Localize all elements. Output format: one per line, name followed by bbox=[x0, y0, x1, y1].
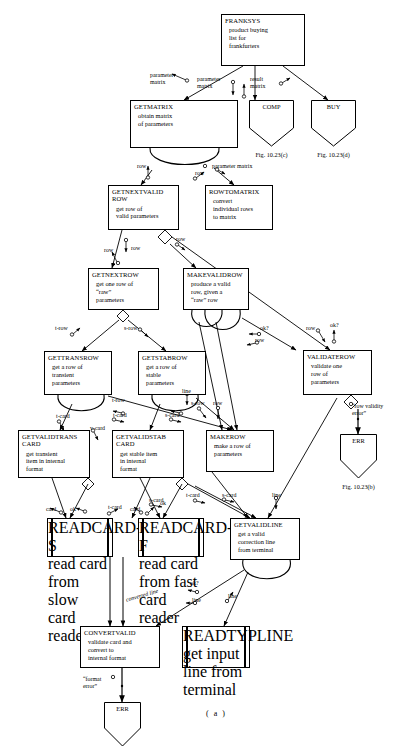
module-title: FRANKSYS bbox=[222, 15, 304, 24]
module-title: VALIDATEROW bbox=[304, 351, 371, 360]
module-getstabrow: GETSTABROWget a row ofstableparameters bbox=[138, 351, 206, 395]
module-title: CONVERTVALID bbox=[81, 627, 159, 636]
data-couple-label: t-row bbox=[55, 325, 68, 332]
data-couple-label: row bbox=[137, 163, 146, 170]
data-couple-label: ok bbox=[70, 506, 76, 513]
module-comp: COMP bbox=[249, 100, 294, 148]
module-franksys: FRANKSYSproduct buyinglist forfrankfurte… bbox=[221, 14, 305, 66]
data-couple-label: s-row bbox=[124, 325, 137, 332]
data-couple-label: row bbox=[104, 247, 113, 254]
module-description: validate card andconvert tointernal form… bbox=[81, 636, 159, 661]
module-makevalidrow: MAKEVALIDROWproduce a validrow, given a“… bbox=[183, 268, 249, 310]
module-title: ERR bbox=[340, 437, 377, 444]
module-description: get stable itemin internalformat bbox=[113, 448, 183, 473]
module-readcardf: READCARD-Fread cardfrom fastcard reader bbox=[138, 518, 204, 557]
module-description: convertindividual rowsto matrix bbox=[206, 195, 272, 220]
module-getnextrow: GETNEXTROWget one row of“raw”parameters bbox=[88, 268, 159, 310]
data-couple-label: ok? bbox=[260, 325, 269, 332]
data-couple-label: row bbox=[255, 337, 264, 344]
module-getvalidtranscard: GETVALIDTRANS CARDget transientitem in i… bbox=[18, 430, 90, 478]
module-title: ERR bbox=[104, 705, 141, 712]
data-couple-label: line bbox=[192, 597, 201, 604]
module-makerow: MAKEROWmake a row ofparameters bbox=[206, 430, 274, 472]
module-title: MAKEVALIDROW bbox=[184, 269, 248, 278]
module-description: produce a validrow, given a“raw” row bbox=[184, 278, 248, 303]
device-bar-left bbox=[186, 626, 188, 668]
module-fig-ref-err_row: Fig. 10.23(b) bbox=[332, 483, 385, 490]
module-convertvalid: CONVERTVALIDvalidate card andconvert toi… bbox=[80, 626, 160, 668]
data-couple-label: ok? bbox=[330, 322, 339, 329]
module-description: validate onerow ofparameters bbox=[304, 360, 371, 385]
data-couple-label: “formaterror” bbox=[83, 676, 101, 689]
module-buy: BUY bbox=[311, 100, 356, 148]
data-couple-label: s-row bbox=[191, 400, 204, 407]
module-fig-ref-comp: Fig. 10.23(c) bbox=[241, 151, 302, 158]
module-readcards: READCARD-Sread cardfrom slowcard reader bbox=[47, 518, 113, 557]
module-title: GETNEXTVALID ROW bbox=[109, 186, 178, 203]
data-couple-label: t-card bbox=[113, 412, 127, 419]
module-err_row: ERR bbox=[340, 434, 377, 480]
module-description: obtain matrixof parameters bbox=[131, 110, 237, 127]
data-couple-label: line bbox=[182, 388, 191, 395]
data-couple-label: card bbox=[46, 506, 56, 513]
data-couple-label: parameter matrix bbox=[212, 163, 252, 170]
module-title: READCARD-S bbox=[48, 519, 112, 555]
module-title: ROWTOMATRIX bbox=[206, 186, 272, 195]
data-couple-label: line bbox=[228, 593, 237, 600]
data-couple-label: ok bbox=[160, 500, 166, 507]
module-err_fmt: ERR bbox=[104, 702, 141, 748]
module-rowtomatrix: ROWTOMATRIXconvertindividual rowsto matr… bbox=[205, 185, 273, 230]
data-couple-label: s-card bbox=[222, 492, 236, 499]
module-title: GETMATRIX bbox=[131, 101, 237, 110]
data-couple-label: s-card bbox=[165, 412, 179, 419]
module-title: BUY bbox=[311, 103, 356, 110]
module-title: GETSTABROW bbox=[139, 352, 205, 361]
device-bar-right bbox=[107, 518, 109, 557]
module-description: get a row ofstableparameters bbox=[139, 361, 205, 386]
module-title: GETVALIDLINE bbox=[231, 519, 299, 528]
module-description: get transientitem in internalformat bbox=[19, 448, 89, 473]
module-fig-ref-buy: Fig. 10.23(d) bbox=[303, 151, 364, 158]
module-getnextvalidrow: GETNEXTVALID ROWget row ofvalid paramete… bbox=[108, 185, 179, 230]
data-couple-label: v-card bbox=[90, 425, 105, 432]
device-bar-left bbox=[51, 518, 53, 557]
data-couple-label: line bbox=[272, 492, 281, 499]
data-couple-label: row bbox=[176, 236, 185, 243]
module-title: GETVALIDSTAB CARD bbox=[113, 431, 183, 448]
module-validaterow: VALIDATEROWvalidate onerow ofparameters bbox=[303, 350, 372, 395]
data-couple-label: row bbox=[213, 400, 222, 407]
data-couple-label: t-card bbox=[56, 413, 70, 420]
module-title: GETTRANSROW bbox=[45, 352, 111, 361]
data-couple-label: parametermatrix bbox=[197, 76, 221, 89]
data-couple-label: ok? bbox=[190, 580, 199, 587]
module-title: GETVALIDTRANS CARD bbox=[19, 431, 89, 448]
module-title: READTYPLINE bbox=[183, 627, 249, 645]
data-couple-label: t-row bbox=[112, 397, 125, 404]
device-bar-right bbox=[244, 626, 246, 668]
data-couple-label: card bbox=[130, 506, 140, 513]
module-getvalidstabcard: GETVALIDSTAB CARDget stable itemin inter… bbox=[112, 430, 184, 478]
module-getmatrix: GETMATRIXobtain matrixof parameters bbox=[130, 100, 238, 148]
data-couple-label: t-card bbox=[108, 504, 122, 511]
data-couple-label: t-card bbox=[186, 492, 200, 499]
module-description: get a validcorrection linefrom terminal bbox=[231, 528, 299, 553]
figure-caption: ( a ) bbox=[206, 709, 226, 718]
module-description: get inputline fromterminal bbox=[183, 645, 249, 699]
module-title: READCARD-F bbox=[139, 519, 203, 555]
module-title: GETNEXTROW bbox=[89, 269, 158, 278]
device-bar-left bbox=[142, 518, 144, 557]
data-couple-label: row bbox=[306, 325, 315, 332]
data-couple-label: parametermatrix bbox=[150, 72, 174, 85]
data-couple-label: “row validityerror” bbox=[352, 403, 383, 416]
data-couple-label: resultmatrix bbox=[250, 76, 265, 89]
module-description: product buyinglist forfrankfurters bbox=[222, 24, 304, 49]
module-description: get one row of“raw”parameters bbox=[89, 278, 158, 303]
module-title: COMP bbox=[249, 103, 294, 110]
data-couple-label: row bbox=[131, 245, 140, 252]
module-getvalidline: GETVALIDLINEget a validcorrection linefr… bbox=[230, 518, 300, 560]
module-readtypline: READTYPLINEget inputline fromterminal bbox=[182, 626, 250, 668]
module-description: make a row ofparameters bbox=[207, 440, 273, 457]
data-couple-label: row bbox=[195, 170, 204, 177]
device-bar-right bbox=[198, 518, 200, 557]
